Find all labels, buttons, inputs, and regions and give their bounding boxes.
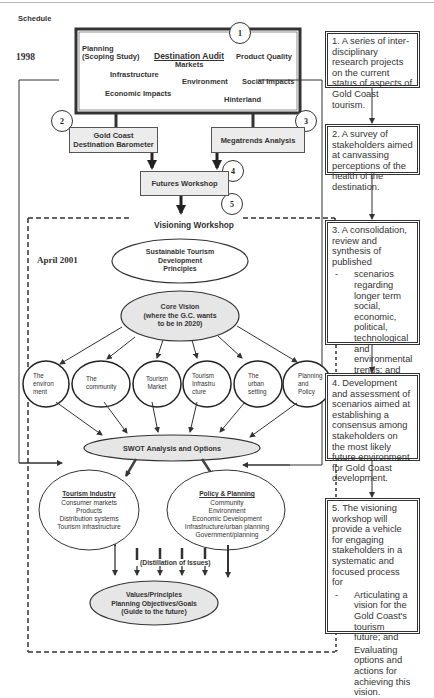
note-5-bullet: Articulating a vision for the Gold Coast…	[332, 590, 413, 643]
theme-text: and	[298, 380, 309, 388]
core-vision-node: Core Vision (where the G.C. wants to be …	[121, 296, 239, 336]
environment-label: Environment	[182, 77, 228, 86]
theme-text: ment	[33, 388, 47, 396]
theme-text: environ	[33, 380, 54, 388]
planning-scoping-label: Planning (Scoping Study)	[82, 45, 140, 61]
step-5-badge: 5	[221, 193, 243, 215]
theme-text: Planning	[298, 372, 323, 380]
policy-planning-node: Policy & Planning Community Environment …	[168, 489, 286, 541]
note-4-text: 4. Development and assessment of scenari…	[332, 378, 413, 484]
infrastructure-label: Infrastructure	[110, 70, 159, 79]
scoping-study-text: (Scoping Study)	[82, 53, 140, 61]
visioning-workshop-label: Visioning Workshop	[154, 220, 234, 230]
tourism-industry-node: Tourism Industry Consumer markets Produc…	[40, 489, 138, 533]
note-4: 4. Development and assessment of scenari…	[325, 373, 420, 461]
tourism-industry-item: Distribution systems	[60, 515, 119, 523]
note-3-bullet: scenarios regarding longer term social, …	[332, 269, 413, 375]
note-3: 3. A consolidation, review and synthesis…	[325, 220, 420, 345]
barometer-line1: Gold Coast	[93, 131, 133, 140]
policy-planning-item: Economic Development	[192, 515, 262, 523]
swot-analysis-node: SWOT Analysis and Options	[84, 441, 260, 455]
step-1-badge: 1	[229, 22, 251, 44]
tourism-industry-item: Consumer markets	[61, 499, 117, 507]
theme-text: Tourism	[192, 372, 214, 380]
values-line2: Planning Objectives/Goals	[111, 600, 197, 609]
note-5-text: 5. The visioning workshop will provide a…	[332, 503, 413, 588]
theme-text: Market	[147, 383, 166, 391]
policy-planning-item: Government/planning	[195, 531, 258, 539]
policy-planning-title: Policy & Planning	[199, 490, 255, 498]
theme-community: The community	[86, 374, 126, 392]
policy-planning-item: Environment	[208, 507, 245, 515]
markets-label: Markets	[175, 60, 203, 69]
core-vision-line2: (where the G.C. wants	[143, 312, 216, 321]
values-principles-node: Values/Principles Planning Objectives/Go…	[92, 590, 216, 618]
theme-tourism-market: Tourism Market	[142, 374, 172, 392]
year-1998-label: 1998	[16, 52, 35, 62]
social-impacts-label: Social Impacts	[242, 77, 295, 86]
schedule-label: Schedule	[18, 14, 51, 23]
policy-planning-item: Community	[210, 499, 243, 507]
april-2001-label: April 2001	[37, 255, 78, 265]
tourism-industry-item: Products	[76, 507, 102, 515]
barometer-line2: Destination Barometer	[73, 140, 153, 149]
tourism-industry-title: Tourism Industry	[62, 490, 115, 498]
note-2-text: 2. A survey of stakeholders aimed at can…	[332, 129, 413, 193]
theme-text: Policy	[298, 388, 315, 396]
theme-text: cture	[192, 388, 206, 396]
principles-line1: Sustainable Tourism	[146, 248, 214, 257]
note-1: 1. A series of inter-disciplinary resear…	[325, 31, 420, 88]
theme-urban-setting: The urban setting	[248, 372, 278, 396]
policy-planning-item: Infrastructure/urban planning	[185, 523, 269, 531]
destination-barometer-box: Gold Coast Destination Barometer	[69, 127, 158, 153]
values-line3: (Guide to the future)	[121, 608, 186, 617]
note-5-bullet: Evaluating options and actions for achie…	[332, 645, 413, 698]
core-vision-title: Core Vision	[161, 303, 200, 312]
theme-text: Infrastru	[192, 380, 215, 388]
economic-impacts-label: Economic Impacts	[105, 89, 171, 98]
theme-text: The	[248, 372, 259, 380]
note-1-text: 1. A series of inter-disciplinary resear…	[332, 36, 413, 110]
theme-tourism-infrastructure: Tourism Infrastru cture	[192, 372, 226, 396]
theme-text: setting	[248, 388, 267, 396]
product-quality-label: Product Quality	[236, 52, 292, 61]
theme-text: The	[86, 375, 97, 383]
hinterland-label: Hinterland	[224, 95, 261, 104]
core-vision-line3: to be in 2020)	[158, 320, 203, 329]
note-5-bullets: Articulating a vision for the Gold Coast…	[332, 590, 413, 698]
theme-environment: The environ ment	[33, 372, 63, 396]
note-5: 5. The visioning workshop will provide a…	[325, 498, 420, 634]
values-line1: Values/Principles	[126, 591, 182, 600]
theme-text: Tourism	[146, 375, 168, 383]
futures-workshop-box: Futures Workshop	[140, 171, 229, 196]
note-3-text: 3. A consolidation, review and synthesis…	[332, 225, 413, 267]
principles-line2: Development	[158, 257, 202, 266]
distillation-label: (Distillation of Issues)	[139, 559, 212, 566]
theme-text: The	[33, 372, 44, 380]
note-2: 2. A survey of stakeholders aimed at can…	[325, 124, 420, 175]
principles-line3: Principles	[163, 265, 196, 274]
tourism-industry-item: Tourism infrastructure	[57, 523, 120, 531]
theme-text: community	[86, 383, 116, 391]
megatrends-analysis-box: Megatrends Analysis	[211, 127, 305, 153]
theme-text: urban	[248, 380, 264, 388]
sustainable-principles-node: Sustainable Tourism Development Principl…	[112, 242, 248, 280]
